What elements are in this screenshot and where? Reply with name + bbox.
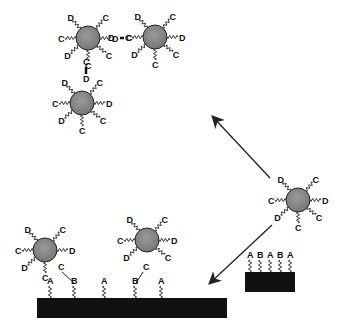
ligand-label-c: C	[161, 215, 168, 225]
surface-linker	[268, 260, 271, 272]
ligand-linker	[80, 115, 83, 126]
particle-core	[33, 238, 57, 262]
tether-label-c: C	[58, 262, 65, 272]
ligand-label-c: C	[79, 126, 86, 136]
ligand-label-d: D	[25, 225, 32, 235]
ligand-label-c: C	[169, 12, 176, 22]
ligand-linker	[97, 46, 106, 53]
ligand-label-c: C	[15, 246, 22, 256]
surface-linker	[278, 260, 281, 272]
ligand-label-d: D	[21, 263, 28, 273]
ligand-label-c: C	[85, 61, 92, 71]
surface-label-a: A	[287, 250, 294, 260]
ligand-linker	[91, 111, 100, 118]
ligand-label-d: D	[68, 13, 75, 23]
ligand-label-c: C	[59, 225, 66, 235]
ligand-label-c: C	[295, 223, 302, 233]
ligand-label-c: C	[96, 78, 103, 88]
nanoparticle-cluster-3: DCDCCDC	[52, 78, 113, 136]
ligand-linker	[22, 248, 33, 251]
ligand-label-c: C	[173, 50, 180, 60]
ligand-linker	[164, 45, 173, 52]
ligand-linker	[307, 208, 316, 215]
ligand-linker	[70, 45, 78, 53]
surface-linker	[258, 260, 261, 272]
large-substrate: ABABA	[37, 276, 227, 318]
surface-label-b: B	[257, 250, 264, 260]
ligand-label-d: D	[135, 12, 142, 22]
particle-core	[135, 228, 159, 252]
ligand-label-d: D	[58, 116, 65, 126]
arrow-to-crosslinked-cluster	[213, 117, 270, 178]
surface-linker	[248, 260, 251, 272]
ligand-label-c: C	[52, 99, 59, 109]
ligand-linker	[132, 35, 143, 38]
ligand-linker	[310, 198, 321, 201]
nanoparticle-free: DCDCCDC	[268, 175, 329, 233]
small-substrate-block	[245, 272, 295, 292]
ligand-label-c: C	[106, 51, 113, 61]
ligand-linker	[65, 36, 76, 39]
surface-label-a: A	[47, 276, 54, 286]
ligand-linker	[59, 101, 70, 104]
ligand-label-d: D	[112, 34, 119, 44]
particle-core	[143, 25, 167, 49]
surface-label-a: A	[267, 250, 274, 260]
bond-label-d: D	[83, 74, 90, 84]
ligand-label-d: D	[123, 253, 130, 263]
ligand-label-c: C	[117, 236, 124, 246]
nanoparticle-cluster-2: DCDCCDC	[125, 12, 186, 70]
large-substrate-block	[37, 298, 227, 318]
surface-linker	[288, 260, 291, 272]
surface-label-a: A	[158, 276, 165, 286]
ligand-label-c: C	[58, 34, 65, 44]
surface-linker	[133, 286, 136, 298]
surface-label-b: B	[132, 276, 139, 286]
ligand-linker	[94, 101, 105, 104]
ligand-label-c: C	[102, 13, 109, 23]
ligand-label-d: D	[274, 213, 281, 223]
ligand-linker	[167, 35, 178, 38]
nanoparticle-bound-1: DCDCDC	[15, 225, 76, 283]
ligand-linker	[64, 110, 72, 118]
ligand-linker	[57, 248, 68, 251]
ligand-linker	[153, 49, 156, 60]
ligand-label-d: D	[127, 215, 134, 225]
surface-linker	[48, 286, 51, 298]
ligand-label-d: D	[171, 236, 178, 246]
ligand-linker	[156, 248, 165, 255]
ligand-linker	[296, 212, 299, 223]
ligand-label-c: C	[125, 33, 132, 43]
ligand-label-c: C	[100, 116, 107, 126]
ligand-linker	[124, 238, 135, 241]
ligand-label-d: D	[64, 51, 71, 61]
ligand-label-d: D	[131, 50, 138, 60]
ligand-linker	[43, 262, 46, 273]
ligand-label-d: D	[69, 246, 76, 256]
ligand-label-c: C	[316, 213, 323, 223]
ligand-label-c: C	[152, 60, 159, 70]
particles-layer: DCDCCDCDCDCCDCDCDCCDCDCDCCDCDCDCDCDCDCDC	[15, 12, 329, 283]
ligand-label-d: D	[322, 196, 329, 206]
particle-core	[76, 26, 100, 50]
ligand-linker	[275, 198, 286, 201]
particle-core	[286, 188, 310, 212]
surface-linker	[102, 286, 105, 298]
ligand-label-d: D	[179, 33, 186, 43]
nanoparticle-bound-2: DCDCDC	[117, 215, 178, 263]
ligand-linker	[159, 238, 170, 241]
diagram-canvas: D C C D DCDCCDCDCDCCDCDCDCCDCDCDCCDCDCDC…	[0, 0, 345, 328]
ligand-label-d: D	[62, 78, 69, 88]
ligand-label-c: C	[312, 175, 319, 185]
particle-core	[70, 91, 94, 115]
ligand-label-d: D	[106, 99, 113, 109]
ligand-label-c: C	[268, 196, 275, 206]
ligand-linker	[27, 257, 35, 265]
ligand-label-d: D	[278, 175, 285, 185]
surface-linker	[159, 286, 162, 298]
tether-label-c: C	[143, 262, 150, 272]
ligand-linker	[137, 44, 145, 52]
ligand-label-c: C	[165, 253, 172, 263]
ligand-linker	[129, 247, 137, 255]
surface-label-a: A	[247, 250, 254, 260]
